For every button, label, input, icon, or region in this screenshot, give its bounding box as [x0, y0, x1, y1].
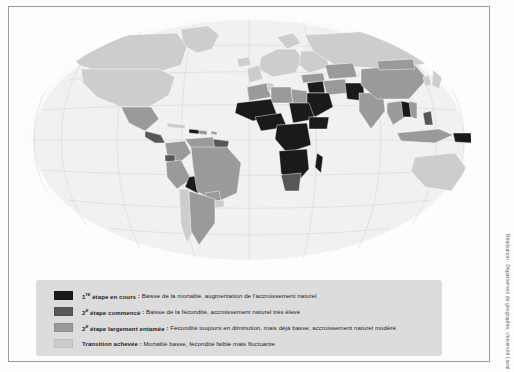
legend-term-completed-rest: Transition achevée	[82, 340, 138, 347]
region-egypt	[291, 89, 307, 105]
legend-item-stage1: 1re étape en cours : Baisse de la mortal…	[54, 287, 442, 303]
legend-swatch-stage2-advanced	[54, 323, 73, 332]
map-legend: 1re étape en cours : Baisse de la mortal…	[36, 280, 442, 356]
legend-label-stage2-advanced: 2e étape largement entamée : Fécondité t…	[82, 321, 396, 332]
legend-item-stage2-begun: 2e étape commencé : Baisse de la fécondi…	[54, 303, 442, 319]
region-haiti	[189, 129, 199, 134]
legend-swatch-stage1	[54, 291, 73, 300]
region-ethiopia-somalia	[309, 117, 329, 129]
legend-label-stage2-begun: 2e étape commencé : Baisse de la fécondi…	[82, 305, 300, 316]
legend-desc-completed: Mortalité basse, fécondité faible mais f…	[144, 340, 275, 347]
legend-desc-stage2-begun: Baisse de la fécondité, accroissement na…	[146, 309, 300, 316]
region-central-asia	[325, 63, 357, 79]
region-libya	[271, 87, 293, 103]
legend-swatch-stage2-begun	[54, 307, 73, 316]
legend-label-completed: Transition achevée : Mortalité basse, fé…	[82, 339, 275, 348]
figure-page: 1re étape en cours : Baisse de la mortal…	[0, 0, 514, 372]
legend-term-stage1-rest: étape en cours	[90, 293, 136, 300]
legend-term-stage2-advanced-rest: étape largement entamée	[88, 325, 164, 332]
legend-desc-stage2-advanced: Fécondité toujours en diminution, mais d…	[170, 325, 396, 332]
region-iran	[323, 79, 349, 95]
credit-line: Réalisation : Département de géographie,…	[503, 232, 513, 364]
region-iraq	[307, 81, 325, 93]
world-map	[9, 7, 489, 282]
region-philippines	[423, 111, 433, 125]
legend-desc-stage1: Baisse de la mortalité, augmentation de …	[142, 293, 317, 300]
credit-text: Réalisation : Département de géographie,…	[505, 232, 511, 369]
region-papua-new-guinea	[453, 133, 473, 143]
legend-item-stage2-advanced: 2e étape largement entamée : Fécondité t…	[54, 319, 442, 335]
region-dominican-republic	[199, 130, 207, 135]
region-uruguay	[215, 200, 224, 208]
world-map-svg	[9, 7, 489, 282]
legend-term-stage2-begun-rest: étape commencé	[88, 309, 140, 316]
legend-swatch-completed	[54, 339, 73, 348]
legend-item-completed: Transition achevée : Mortalité basse, fé…	[54, 335, 442, 351]
legend-label-stage1: 1re étape en cours : Baisse de la mortal…	[82, 289, 316, 300]
region-british-isles	[237, 57, 251, 67]
region-mongolia	[377, 59, 415, 70]
